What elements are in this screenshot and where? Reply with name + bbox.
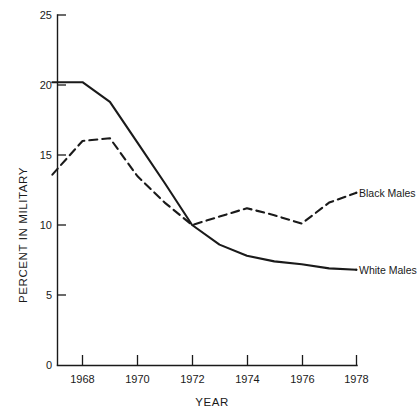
series-line-black-males [52, 138, 356, 225]
x-axis-tick-labels: 1968 1970 1972 1974 1976 1978 [70, 373, 368, 385]
y-tick-label-15: 15 [40, 149, 52, 161]
y-axis-tick-labels: 25 20 15 10 5 0 [40, 9, 52, 371]
y-axis-ticks [58, 15, 67, 295]
series-line-white-males [52, 82, 356, 270]
series-label-white-males: White Males [359, 264, 417, 276]
x-tick-label-1974: 1974 [235, 373, 259, 385]
x-tick-label-1976: 1976 [290, 373, 314, 385]
y-tick-label-5: 5 [46, 289, 52, 301]
series-plot-area [52, 82, 356, 270]
x-tick-label-1970: 1970 [125, 373, 149, 385]
chart-container: 25 20 15 10 5 0 PERCENT IN MILITARY 1968 [0, 0, 417, 414]
series-label-black-males: Black Males [359, 187, 416, 199]
x-axis: 1968 1970 1972 1974 1976 1978 YEAR [58, 355, 369, 408]
line-chart: 25 20 15 10 5 0 PERCENT IN MILITARY 1968 [0, 0, 417, 414]
x-axis-ticks [83, 355, 357, 366]
x-axis-title: YEAR [195, 396, 229, 408]
x-tick-label-1978: 1978 [344, 373, 368, 385]
x-tick-label-1972: 1972 [180, 373, 204, 385]
y-axis-title: PERCENT IN MILITARY [17, 167, 29, 303]
y-tick-label-20: 20 [40, 79, 52, 91]
y-tick-label-10: 10 [40, 219, 52, 231]
series-labels: Black Males White Males [359, 187, 417, 276]
y-tick-label-0: 0 [46, 359, 52, 371]
y-axis: 25 20 15 10 5 0 PERCENT IN MILITARY [17, 9, 66, 371]
y-tick-label-25: 25 [40, 9, 52, 21]
x-tick-label-1968: 1968 [70, 373, 94, 385]
